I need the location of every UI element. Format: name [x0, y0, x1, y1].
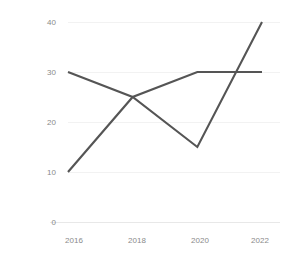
- x-tick-label-2018: 2018: [128, 236, 146, 245]
- x-axis-tick-labels: 2016 2018 2020 2022: [65, 236, 269, 245]
- y-tick-label-0: 0: [52, 218, 57, 227]
- x-tick-label-2020: 2020: [191, 236, 209, 245]
- y-axis-tick-labels: 40 30 20 10 0: [47, 18, 56, 227]
- line-chart: 40 30 20 10 0 2016 2018 2020 2022: [0, 0, 300, 265]
- y-tick-label-30: 30: [47, 68, 56, 77]
- y-tick-label-20: 20: [47, 118, 56, 127]
- series-group: [68, 22, 262, 172]
- x-tick-label-2022: 2022: [251, 236, 269, 245]
- y-tick-label-10: 10: [47, 168, 56, 177]
- x-tick-label-2016: 2016: [65, 236, 83, 245]
- gridlines-group: [68, 22, 280, 172]
- y-tick-label-40: 40: [47, 18, 56, 27]
- chart-plot-area: 40 30 20 10 0 2016 2018 2020 2022: [0, 0, 300, 265]
